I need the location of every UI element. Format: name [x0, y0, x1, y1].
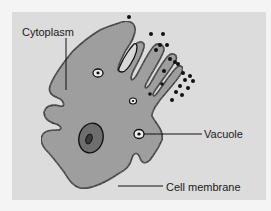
label-cell-membrane: Cell membrane	[166, 181, 241, 193]
vacuole-labeled-center	[137, 133, 140, 136]
label-cytoplasm: Cytoplasm	[22, 26, 74, 38]
vacuole-top-center	[96, 72, 99, 75]
vacuole-extension-center	[132, 100, 134, 102]
label-vacuole: Vacuole	[204, 128, 243, 140]
